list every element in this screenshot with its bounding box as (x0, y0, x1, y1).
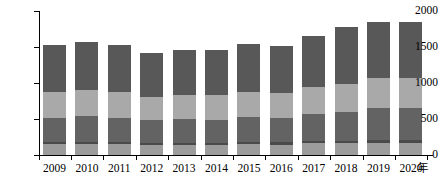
bar-2009 (43, 45, 66, 155)
bar-segment-seg_base (205, 145, 228, 155)
bar-segment-seg_mid_dark (108, 118, 131, 142)
bar-2013 (173, 50, 196, 155)
bar-2011 (108, 45, 131, 155)
y-tick-label: 1500 (406, 41, 438, 53)
y-tick-mark (34, 11, 39, 12)
bar-segment-seg_mid_dark (75, 116, 98, 142)
x-tick-label-2016: 2016 (265, 163, 298, 175)
x-tick-label-2012: 2012 (135, 163, 168, 175)
x-tick-label-2013: 2013 (168, 163, 201, 175)
bar-segment-seg_base (140, 145, 163, 155)
bar-2019 (367, 22, 390, 155)
bar-segment-seg_top (302, 36, 325, 86)
x-tick-mark (233, 156, 234, 160)
bar-segment-seg_mid_light (367, 78, 390, 108)
bar-2017 (302, 36, 325, 155)
x-tick-label-2011: 2011 (103, 163, 136, 175)
x-tick-mark (201, 156, 202, 160)
x-tick-mark (136, 156, 137, 160)
x-tick-mark (71, 156, 72, 160)
bar-segment-seg_top (237, 44, 260, 92)
bar-segment-seg_base (75, 144, 98, 155)
bar-segment-seg_base (302, 143, 325, 155)
x-tick-label-2020: 2020 (394, 163, 427, 175)
x-tick-label-2009: 2009 (38, 163, 71, 175)
bar-segment-seg_top (367, 22, 390, 79)
y-tick-label: 0 (406, 149, 438, 161)
x-tick-mark (265, 156, 266, 160)
bar-segment-seg_top (140, 53, 163, 97)
bar-segment-seg_top (335, 27, 358, 84)
bar-segment-seg_top (173, 50, 196, 95)
x-tick-label-2017: 2017 (297, 163, 330, 175)
bar-segment-seg_mid_dark (173, 119, 196, 143)
x-tick-mark (103, 156, 104, 160)
x-tick-label-2018: 2018 (330, 163, 363, 175)
x-tick-mark (298, 156, 299, 160)
x-tick-label-2010: 2010 (70, 163, 103, 175)
bar-segment-seg_mid_light (335, 84, 358, 112)
bar-segment-seg_mid_dark (205, 120, 228, 143)
y-tick-mark (34, 83, 39, 84)
bar-2015 (237, 44, 260, 155)
y-tick-label: 1000 (406, 77, 438, 89)
bar-segment-seg_mid_dark (335, 112, 358, 141)
bar-segment-seg_mid_dark (43, 118, 66, 142)
bar-segment-seg_mid_light (205, 95, 228, 119)
bar-segment-seg_base (237, 144, 260, 155)
x-tick-mark (330, 156, 331, 160)
bar-segment-seg_top (43, 45, 66, 92)
bar-segment-seg_mid_dark (270, 118, 293, 142)
bar-segment-seg_top (75, 42, 98, 90)
x-tick-mark (395, 156, 396, 160)
bar-segment-seg_base (335, 143, 358, 155)
bar-segment-seg_mid_light (140, 97, 163, 121)
bar-segment-seg_mid_dark (302, 114, 325, 141)
bar-segment-seg_top (108, 45, 131, 92)
y-tick-mark (34, 119, 39, 120)
bar-2010 (75, 42, 98, 155)
bar-segment-seg_base (173, 145, 196, 155)
x-tick-mark (168, 156, 169, 160)
bar-segment-seg_base (270, 145, 293, 155)
y-tick-label: 2000 (406, 5, 438, 17)
bar-segment-seg_mid_light (75, 90, 98, 117)
bar-segment-seg_base (367, 143, 390, 155)
x-tick-mark (427, 156, 428, 160)
stacked-bar-chart: 年 05001000150020002009201020112012201320… (0, 0, 438, 183)
bar-segment-seg_mid_light (43, 92, 66, 118)
bar-segment-seg_base (43, 144, 66, 155)
bar-segment-seg_mid_dark (140, 120, 163, 143)
bar-2018 (335, 27, 358, 155)
bar-segment-seg_mid_light (302, 87, 325, 114)
bars-layer (0, 0, 438, 183)
x-tick-label-2015: 2015 (232, 163, 265, 175)
bar-segment-seg_mid_light (108, 92, 131, 118)
bar-segment-seg_mid_light (237, 92, 260, 118)
x-tick-label-2019: 2019 (362, 163, 395, 175)
x-tick-mark (363, 156, 364, 160)
x-tick-label-2014: 2014 (200, 163, 233, 175)
bar-segment-seg_top (205, 50, 228, 95)
bar-segment-seg_mid_dark (367, 108, 390, 140)
bar-2012 (140, 53, 163, 155)
bar-2014 (205, 50, 228, 155)
bar-segment-seg_top (270, 46, 293, 93)
bar-segment-seg_mid_light (173, 95, 196, 119)
bar-2016 (270, 46, 293, 155)
bar-segment-seg_base (108, 144, 131, 155)
y-tick-mark (34, 47, 39, 48)
y-tick-label: 500 (406, 113, 438, 125)
bar-segment-seg_mid_dark (237, 117, 260, 142)
x-tick-mark (39, 156, 40, 160)
bar-segment-seg_mid_light (270, 93, 293, 118)
